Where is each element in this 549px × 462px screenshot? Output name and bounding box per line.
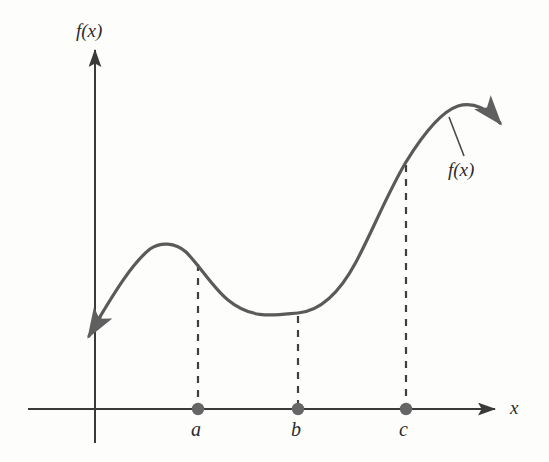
point-label-a: a — [191, 419, 201, 439]
figure-canvas — [0, 0, 549, 462]
function-graph-figure: f(x) x f(x) a b c — [0, 0, 549, 462]
point-dot-c — [400, 403, 412, 415]
curve-label-leader-line — [449, 117, 464, 156]
point-label-c: c — [399, 419, 408, 439]
point-label-b: b — [291, 419, 301, 439]
point-dot-a — [192, 403, 204, 415]
x-axis-label: x — [510, 398, 518, 417]
y-axis-label: f(x) — [76, 21, 102, 40]
point-dot-b — [292, 403, 304, 415]
curve-label: f(x) — [448, 160, 474, 179]
function-curve — [92, 105, 500, 330]
